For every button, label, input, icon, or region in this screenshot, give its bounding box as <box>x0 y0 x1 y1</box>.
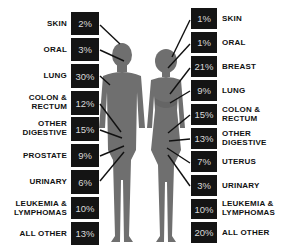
male-label-urinary: URINARY <box>29 178 67 187</box>
female-value-skin: 1% <box>191 8 217 29</box>
male-value-leukemia-lymphomas: 10% <box>71 197 99 219</box>
female-label-lung: LUNG <box>222 87 245 96</box>
female-value-other-digestive: 13% <box>191 128 217 149</box>
male-label-oral: ORAL <box>44 46 67 55</box>
male-value-colon-rectum: 12% <box>71 91 99 115</box>
male-value-skin: 2% <box>71 12 99 35</box>
female-label-skin: SKIN <box>222 15 242 24</box>
female-value-urinary: 3% <box>191 175 217 196</box>
female-value-breast: 21% <box>191 56 217 77</box>
female-label-other-digestive: OTHER DIGESTIVE <box>222 130 266 147</box>
female-label-breast: BREAST <box>222 63 256 72</box>
male-label-all-other: ALL OTHER <box>20 230 67 239</box>
female-label-colon-rectum: COLON & RECTUM <box>222 106 260 123</box>
male-label-skin: SKIN <box>47 20 67 29</box>
female-label-oral: ORAL <box>222 39 245 48</box>
female-value-leukemia-lymphomas: 10% <box>191 199 217 219</box>
male-label-other-digestive: OTHER DIGESTIVE <box>23 120 67 137</box>
female-value-uterus: 7% <box>191 151 217 172</box>
male-value-oral: 3% <box>71 38 99 61</box>
male-value-all-other: 13% <box>71 222 99 245</box>
female-value-lung: 9% <box>191 80 217 101</box>
female-silhouette-icon <box>147 49 185 242</box>
male-label-leukemia-lymphomas: LEUKEMIA & LYMPHOMAS <box>14 200 67 217</box>
male-value-urinary: 6% <box>71 170 99 194</box>
male-silhouette-icon <box>99 43 145 242</box>
female-value-oral: 1% <box>191 32 217 53</box>
male-value-lung: 30% <box>71 64 99 88</box>
female-label-urinary: URINARY <box>222 182 260 191</box>
cancer-site-diagram: SKIN 2% ORAL 3% LUNG 30% COLON & RECTUM … <box>0 0 283 250</box>
female-label-all-other: ALL OTHER <box>222 229 269 238</box>
female-label-leukemia-lymphomas: LEUKEMIA & LYMPHOMAS <box>222 200 275 217</box>
male-value-prostate: 9% <box>71 144 99 167</box>
male-value-other-digestive: 15% <box>71 117 99 141</box>
male-label-prostate: PROSTATE <box>23 152 67 161</box>
female-value-all-other: 20% <box>191 222 217 243</box>
male-label-lung: LUNG <box>44 72 67 81</box>
female-label-uterus: UTERUS <box>222 158 256 167</box>
female-value-colon-rectum: 15% <box>191 104 217 125</box>
male-label-colon-rectum: COLON & RECTUM <box>29 94 67 111</box>
